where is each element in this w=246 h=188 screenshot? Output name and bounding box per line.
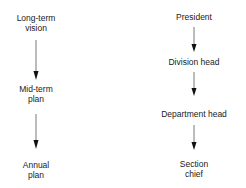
arrow-left-2 (34, 114, 39, 149)
flow-arrows (0, 0, 246, 188)
arrow-left-1 (34, 40, 39, 80)
arrow-right-2 (192, 72, 197, 96)
arrow-right-1 (192, 27, 197, 52)
arrow-right-3 (192, 125, 197, 150)
